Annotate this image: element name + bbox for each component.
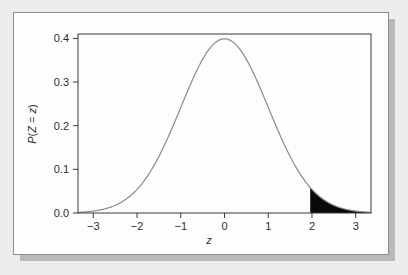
figure-card: −3−2−10123 0.00.10.20.30.4 z P(Z = z) — [13, 12, 389, 255]
x-axis-title: z — [205, 234, 212, 246]
y-axis-ticks: 0.00.10.20.30.4 — [54, 32, 78, 219]
y-tick-label: 0.3 — [54, 76, 69, 88]
x-axis-ticks: −3−2−10123 — [87, 213, 359, 232]
plot-frame — [78, 34, 371, 213]
y-tick-label: 0.4 — [54, 32, 69, 44]
screenshot-root: −3−2−10123 0.00.10.20.30.4 z P(Z = z) — [0, 0, 408, 275]
y-tick-label: 0.1 — [54, 163, 69, 175]
y-tick-label: 0.2 — [54, 120, 69, 132]
x-tick-label: 0 — [221, 220, 227, 232]
x-tick-label: 3 — [353, 220, 359, 232]
upper-tail-shaded-area — [310, 187, 371, 213]
x-tick-label: 1 — [265, 220, 271, 232]
y-tick-label: 0.0 — [54, 207, 69, 219]
y-axis-title: P(Z = z) — [26, 104, 38, 143]
x-tick-label: 2 — [309, 220, 315, 232]
normal-density-curve — [78, 39, 371, 213]
x-tick-label: −1 — [174, 220, 187, 232]
chart-svg: −3−2−10123 0.00.10.20.30.4 z P(Z = z) — [14, 13, 390, 256]
x-tick-label: −2 — [131, 220, 144, 232]
normal-distribution-plot: −3−2−10123 0.00.10.20.30.4 z P(Z = z) — [14, 13, 390, 256]
x-tick-label: −3 — [87, 220, 100, 232]
